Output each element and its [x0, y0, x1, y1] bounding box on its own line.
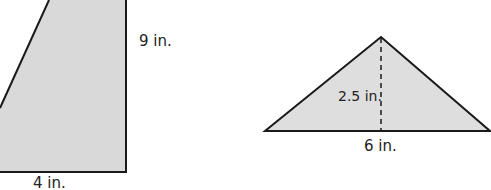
triangle-base-label: 6 in. [364, 137, 397, 155]
diagram-canvas: 9 in. 4 in. 2.5 in. 6 in. [0, 0, 491, 190]
triangle-height-label: 2.5 in. [338, 88, 382, 104]
trapezoid-base-label: 4 in. [33, 174, 66, 190]
triangle-shape [265, 37, 490, 131]
shapes-layer [0, 0, 491, 190]
trapezoid-height-label: 9 in. [139, 32, 172, 50]
trapezoid-shape [0, 0, 126, 172]
